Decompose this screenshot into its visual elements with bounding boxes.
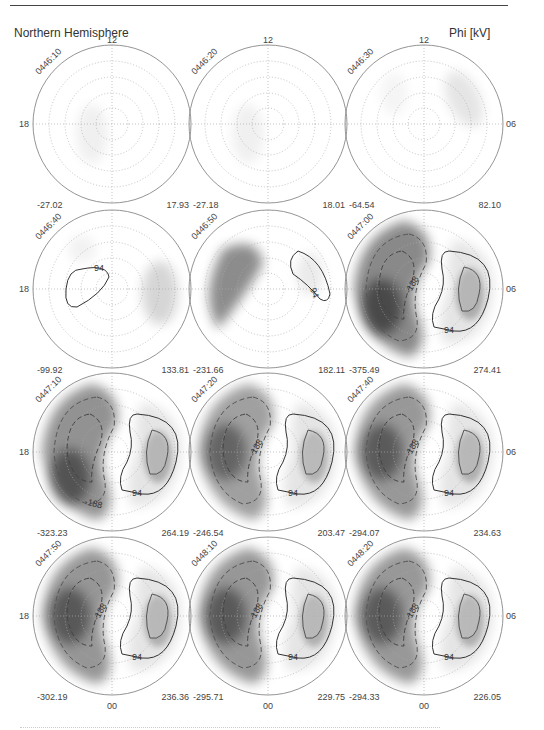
polar-panel-0447-10: 94-1880447:1018-323.23264.19 [19, 373, 191, 538]
polar-panel-0447-20: 94-1880447:20-246.54203.47 [189, 373, 347, 538]
panel-time-label: 0446:10 [33, 46, 63, 76]
contour-label-94: 94 [444, 325, 454, 335]
panel-time-label: 0447:00 [345, 211, 375, 241]
contour-label-94: 94 [444, 488, 454, 498]
contour-label-94: 94 [288, 652, 298, 662]
panel-min-value: -375.49 [349, 365, 380, 375]
panel-min-value: -323.23 [37, 528, 68, 538]
panel-max-value: 236.36 [161, 692, 189, 702]
mlt-label-12: 12 [419, 35, 429, 45]
mlt-label-06: 06 [506, 119, 516, 129]
panel-time-label: 0448:20 [345, 538, 375, 568]
mlt-label-00: 00 [263, 701, 273, 711]
polar-panel-0448-20: 94-1880448:200600-294.33226.05 [345, 537, 516, 711]
contour-label-94: 94 [94, 263, 104, 273]
polar-panel-0446-30: 0446:301206-64.5482.10 [345, 35, 516, 210]
panel-max-value: 133.81 [161, 365, 189, 375]
polar-panel-0446-40: 940446:4018-99.92133.81 [19, 210, 191, 375]
mlt-label-12: 12 [107, 35, 117, 45]
panel-max-value: 274.41 [473, 365, 501, 375]
panel-min-value: -294.33 [349, 692, 380, 702]
mlt-label-18: 18 [19, 447, 29, 457]
polar-panel-0446-50: 940446:50-231.66182.11 [189, 210, 347, 375]
mlt-label-00: 00 [107, 701, 117, 711]
mlt-label-12: 12 [263, 35, 273, 45]
contour-94 [66, 268, 109, 308]
panel-time-label: 0447:50 [33, 538, 63, 568]
panel-max-value: 226.05 [473, 692, 501, 702]
contour-label-94: 94 [132, 652, 142, 662]
panel-min-value: -64.54 [349, 200, 375, 210]
bottom-dotted-rule [20, 727, 440, 729]
panel-time-label: 0447:20 [189, 374, 219, 404]
mlt-label-18: 18 [19, 284, 29, 294]
polar-panel-0447-50: 94-1880447:501800-302.19236.36 [19, 537, 191, 711]
panel-min-value: -246.54 [193, 528, 224, 538]
panel-max-value: 203.47 [317, 528, 345, 538]
polar-panel-0446-10: 0446:101218-27.0217.93 [19, 35, 191, 210]
panel-time-label: 0447:40 [345, 374, 375, 404]
mlt-label-00: 00 [419, 701, 429, 711]
mlt-label-18: 18 [19, 119, 29, 129]
mlt-label-06: 06 [506, 611, 516, 621]
panel-min-value: -302.19 [37, 692, 68, 702]
mlt-label-06: 06 [506, 284, 516, 294]
panel-min-value: -295.71 [193, 692, 224, 702]
polar-plot-grid: 0446:101218-27.0217.930446:2012-27.1818.… [0, 0, 544, 730]
panel-max-value: 234.63 [473, 528, 501, 538]
panel-min-value: -27.18 [193, 200, 219, 210]
panel-max-value: 82.10 [478, 200, 501, 210]
panel-min-value: -294.07 [349, 528, 380, 538]
panel-time-label: 0448:10 [189, 538, 219, 568]
contour-label-94: 94 [444, 652, 454, 662]
contour-label-94: 94 [132, 488, 142, 498]
panel-max-value: 18.01 [322, 200, 345, 210]
polar-panel-0448-10: 94-1880448:1000-295.71229.75 [189, 537, 347, 711]
panel-max-value: 264.19 [161, 528, 189, 538]
panel-min-value: -231.66 [193, 365, 224, 375]
panel-time-label: 0446:50 [189, 211, 219, 241]
contour-label-94: 94 [288, 488, 298, 498]
panel-time-label: 0446:20 [189, 46, 219, 76]
panel-max-value: 229.75 [317, 692, 345, 702]
panel-min-value: -27.02 [37, 200, 63, 210]
panel-time-label: 0446:40 [33, 211, 63, 241]
polar-panel-0447-00: 94-1880447:0006-375.49274.41 [345, 210, 516, 375]
panel-time-label: 0446:30 [345, 46, 375, 76]
polar-panel-0446-20: 0446:2012-27.1818.01 [189, 35, 347, 210]
mlt-label-18: 18 [19, 611, 29, 621]
panel-time-label: 0447:10 [33, 374, 63, 404]
mlt-label-06: 06 [506, 447, 516, 457]
panel-max-value: 17.93 [166, 200, 189, 210]
polar-panel-0447-40: 94-1880447:4006-294.07234.63 [345, 373, 516, 538]
panel-min-value: -99.92 [37, 365, 63, 375]
panel-max-value: 182.11 [318, 365, 345, 375]
